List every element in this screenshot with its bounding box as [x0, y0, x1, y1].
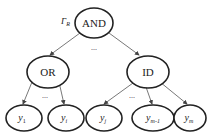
leaf-ym1: ym-1 — [132, 105, 174, 131]
edge-and-or — [50, 33, 80, 55]
node-and: AND — [75, 8, 113, 38]
node-and-label: AND — [82, 17, 106, 29]
node-id-label: ID — [142, 66, 154, 78]
root-annotation: ΓR — [60, 16, 70, 27]
ellipsis-or: ... — [42, 91, 48, 100]
leaf-yj: yj — [86, 105, 122, 131]
leaf-y1: y1 — [6, 105, 42, 131]
leaf-ym: ym — [174, 105, 206, 131]
edge-id-ym1 — [146, 87, 152, 104]
edge-or-y1 — [23, 82, 32, 104]
node-id: ID — [127, 56, 169, 88]
leaf-yi: yi — [48, 105, 84, 131]
node-or-label: OR — [40, 66, 56, 78]
edge-id-ym — [160, 82, 187, 104]
edge-and-id — [109, 33, 139, 55]
tree-diagram: ... ... ... AND ΓR OR ID y1 yi yj ym-1 y… — [0, 0, 209, 140]
node-or: OR — [27, 56, 69, 88]
ellipsis-top: ... — [91, 43, 97, 52]
ellipsis-id: ... — [129, 91, 135, 100]
